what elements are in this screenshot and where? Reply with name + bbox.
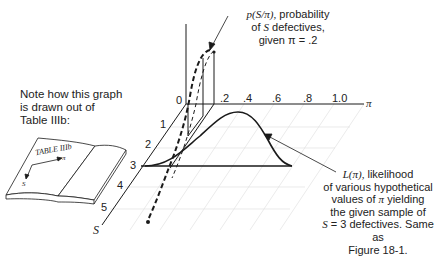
pi-02-plane [170, 51, 214, 168]
callout-math: S [264, 21, 270, 33]
book-s-label: S [22, 178, 26, 190]
callout-text: probability [279, 8, 329, 20]
callout-text: values of [332, 193, 376, 205]
callout-text: likelihood [367, 168, 413, 180]
callout-math: L(π), [343, 168, 365, 180]
callout-text: of [251, 21, 260, 33]
callout-text: defectives, [272, 21, 325, 33]
callout-math: S [322, 218, 328, 230]
pi-tick-label: .2 [220, 92, 229, 104]
s-axis-label: S [93, 223, 99, 238]
note-line: Table IIIb: [20, 114, 122, 127]
callout-text: = 3 defectives. Same as [331, 218, 434, 243]
note-line: is drawn out of [20, 101, 122, 114]
pi-tick-label: .4 [243, 92, 252, 104]
pi-tick-label: 1.0 [332, 92, 347, 104]
note-text: Note how this graph is drawn out of Tabl… [20, 88, 122, 127]
probability-callout: p(S/π), probability of S defectives, giv… [232, 8, 344, 47]
likelihood-callout: L(π), likelihood of various hypothetical… [316, 168, 440, 256]
callout-text: given π = .2 [232, 34, 344, 47]
s-tick-label: 4 [117, 179, 123, 191]
pi-axis-label: π [366, 97, 372, 109]
callout-math: p(S/π), [247, 8, 277, 20]
pi-tick-label: .6 [272, 92, 281, 104]
callout-math: π [379, 193, 385, 205]
callout-text: the given sample of [316, 206, 440, 219]
s-tick-label: 5 [101, 201, 107, 213]
s-tick-label: 1 [160, 118, 166, 130]
pi-tick-label: .8 [303, 92, 312, 104]
callout-text: of various hypothetical [316, 181, 440, 194]
s-tick-label: 2 [145, 138, 151, 150]
callout-text: Figure 18-1. [316, 244, 440, 256]
book-pi-label: π [62, 152, 66, 164]
likelihood-curve [145, 112, 292, 166]
s-tick-label: 3 [130, 159, 136, 171]
callout-text: yielding [387, 193, 424, 205]
origin-label: 0 [176, 94, 182, 106]
note-line: Note how this graph [20, 88, 122, 101]
